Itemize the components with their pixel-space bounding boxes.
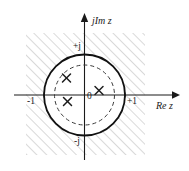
tick-label-minus-one: -1 bbox=[27, 97, 35, 107]
tick-label-plus-j: +j bbox=[73, 42, 81, 52]
origin-label: 0 bbox=[87, 92, 92, 102]
tick-label-plus-one: +1 bbox=[127, 97, 137, 107]
real-axis-label: Re z bbox=[156, 101, 173, 111]
tick-label-minus-j: -j bbox=[74, 137, 80, 147]
complex-plane-figure: jIm z Re z -1 +1 +j -j 0 bbox=[0, 0, 189, 171]
imaginary-axis-label: jIm z bbox=[92, 16, 112, 26]
